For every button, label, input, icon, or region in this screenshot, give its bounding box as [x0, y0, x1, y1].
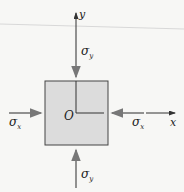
- sigma-x-left-label: σx: [9, 115, 21, 131]
- sigma-x-right-label: σx: [132, 115, 144, 131]
- stress-element-diagram: y σy σy σx σx x O: [0, 0, 184, 192]
- x-axis-label: x: [170, 116, 177, 129]
- sigma-y-bottom-label: σy: [81, 167, 94, 183]
- origin-label: O: [64, 109, 74, 123]
- sigma-y-top-label: σy: [81, 44, 94, 60]
- y-axis-label: y: [78, 8, 86, 21]
- background-line: [0, 24, 184, 29]
